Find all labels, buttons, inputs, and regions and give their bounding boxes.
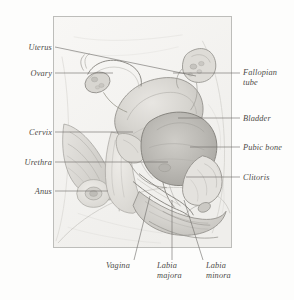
label-vagina: Vagina	[106, 261, 130, 271]
label-labia-minora: Labia minora	[206, 261, 231, 280]
label-anus: Anus	[2, 187, 52, 197]
label-labia-majora-line2: majora	[157, 271, 182, 281]
label-pubic-bone: Pubic bone	[243, 143, 282, 153]
label-bladder: Bladder	[243, 114, 271, 124]
label-fallopian-tube-line2: tube	[243, 78, 277, 88]
diagram-page: Uterus Ovary Cervix Urethra Anus Fallopi…	[0, 0, 294, 300]
label-fallopian-tube-line1: Fallopian	[243, 68, 277, 78]
label-labia-minora-line1: Labia	[206, 261, 231, 271]
label-urethra: Urethra	[2, 158, 52, 168]
label-labia-majora-line1: Labia	[157, 261, 182, 271]
anatomical-illustration-frame	[53, 16, 232, 248]
anatomical-illustration	[54, 17, 231, 247]
label-ovary: Ovary	[2, 69, 52, 79]
label-clitoris: Clitoris	[243, 173, 270, 183]
label-cervix: Cervix	[2, 128, 52, 138]
label-uterus: Uterus	[2, 43, 52, 53]
label-labia-majora: Labia majora	[157, 261, 182, 280]
label-labia-minora-line2: minora	[206, 271, 231, 281]
label-fallopian-tube: Fallopian tube	[243, 68, 277, 87]
